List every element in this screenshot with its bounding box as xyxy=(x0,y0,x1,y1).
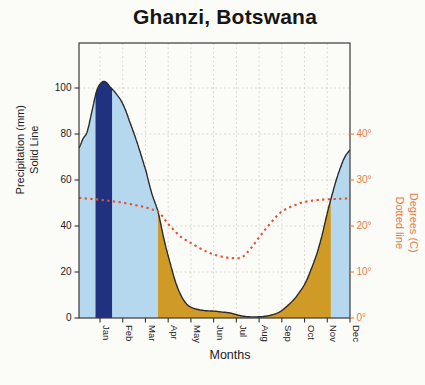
month-tick-label: Sep xyxy=(283,325,294,342)
left-axis-ticks: 020406080100 xyxy=(55,82,79,323)
month-tick-label: Aug xyxy=(260,325,271,342)
month-axis-ticks: JanFebMarAprMayJunJulAugSepOctNovDec xyxy=(100,318,362,343)
month-tick-label: Nov xyxy=(328,325,339,342)
right-axis-ticks: 0°10°20°30°40° xyxy=(350,128,372,323)
month-tick-label: Dec xyxy=(351,325,362,342)
left-tick-label: 20 xyxy=(60,266,72,277)
month-tick-label: Jul xyxy=(238,325,249,337)
month-tick-label: Oct xyxy=(306,325,317,340)
humid-region-fill xyxy=(331,150,350,318)
right-tick-label: 0° xyxy=(357,312,367,323)
month-tick-label: Apr xyxy=(169,325,180,340)
x-axis-label: Months xyxy=(45,348,415,362)
left-tick-label: 80 xyxy=(60,128,72,139)
right-tick-label: 10° xyxy=(357,266,372,277)
left-tick-label: 40 xyxy=(60,220,72,231)
right-tick-label: 30° xyxy=(357,174,372,185)
climograph-chart: 0204060801000°10°20°30°40°JanFebMarAprMa… xyxy=(0,0,425,385)
month-tick-label: Mar xyxy=(147,325,158,341)
month-tick-label: Jan xyxy=(101,325,112,340)
left-tick-label: 0 xyxy=(66,312,72,323)
month-tick-label: Feb xyxy=(124,325,135,341)
month-tick-label: Jun xyxy=(215,325,226,340)
right-tick-label: 20° xyxy=(357,220,372,231)
january-precipitation-bar xyxy=(96,43,113,318)
month-tick-label: May xyxy=(192,325,203,343)
left-tick-label: 100 xyxy=(55,82,72,93)
climograph-page: Ghanzi, Botswana Precipitation (mm) Soli… xyxy=(0,0,425,385)
right-tick-label: 40° xyxy=(357,128,372,139)
precipitation-area-fills xyxy=(79,81,350,318)
left-tick-label: 60 xyxy=(60,174,72,185)
